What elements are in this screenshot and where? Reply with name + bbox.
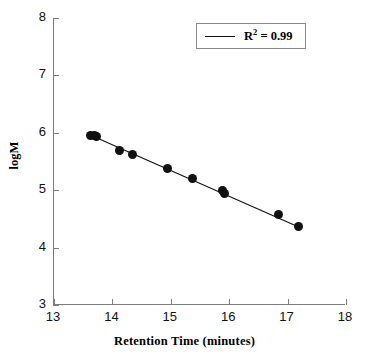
y-axis-tick-label: 7 <box>20 66 46 81</box>
y-axis-tick-label: 4 <box>20 239 46 254</box>
data-point <box>274 210 283 219</box>
x-axis-tick-label: 16 <box>208 309 248 324</box>
y-axis-tick <box>53 18 59 19</box>
x-axis-tick-label: 13 <box>33 309 73 324</box>
legend-label-r-squared: R2 = 0.99 <box>244 27 293 44</box>
x-axis-tick <box>229 299 230 305</box>
x-axis-tick <box>346 299 347 305</box>
x-axis-tick <box>288 299 289 305</box>
x-axis-tick-label: 18 <box>325 309 365 324</box>
legend: R2 = 0.99 <box>196 23 306 49</box>
data-point <box>92 132 101 141</box>
x-axis-tick <box>112 299 113 305</box>
x-axis-tick <box>171 299 172 305</box>
chart-figure: logM Retention Time (minutes) R2 = 0.99 … <box>0 0 369 359</box>
y-axis-tick <box>53 133 59 134</box>
plot-area <box>53 18 345 305</box>
x-axis-tick-label: 15 <box>150 309 190 324</box>
regression-line <box>54 18 346 305</box>
data-layer <box>54 18 346 305</box>
y-axis-tick-label: 5 <box>20 181 46 196</box>
y-axis-tick <box>53 190 59 191</box>
x-axis-tick-label: 17 <box>267 309 307 324</box>
legend-line-swatch <box>205 36 235 37</box>
y-axis-tick-label: 8 <box>20 9 46 24</box>
y-axis-tick <box>53 75 59 76</box>
y-axis-tick-label: 6 <box>20 124 46 139</box>
x-axis-title: Retention Time (minutes) <box>0 334 369 349</box>
y-axis-tick <box>53 248 59 249</box>
data-point <box>220 189 229 198</box>
data-point <box>128 150 137 159</box>
x-axis-tick-label: 14 <box>91 309 131 324</box>
data-point <box>115 146 124 155</box>
y-axis-tick <box>53 305 59 306</box>
y-axis-tick-label: 3 <box>20 296 46 311</box>
